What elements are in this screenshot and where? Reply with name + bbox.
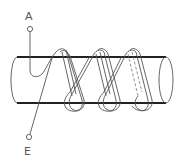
cylinder-right-end (159, 57, 173, 103)
cylinder (11, 57, 173, 103)
coil-back-3 (128, 54, 138, 96)
terminal-e-label: E (24, 145, 31, 158)
coil-turn-2 (103, 50, 136, 111)
terminal-e-node (26, 134, 31, 139)
terminal-a-node (27, 26, 32, 31)
terminal-a: A (25, 10, 56, 77)
coil-back-2 (96, 54, 106, 96)
cylinder-left-end (11, 57, 17, 103)
terminal-e: E (24, 58, 52, 158)
coil-diagram: A E (0, 0, 183, 159)
lead-wire-a (30, 32, 56, 77)
coil-back-2b (100, 52, 110, 94)
terminal-a-label: A (25, 10, 33, 23)
lead-wire-e (30, 58, 52, 134)
